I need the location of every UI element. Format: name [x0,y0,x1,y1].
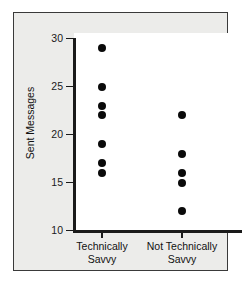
data-point [178,179,186,187]
x-category-label-line2: Savvy [122,253,242,266]
y-tick-label-text: 10 [14,225,63,236]
x-category-label: Not TechnicallySavvy [122,240,242,266]
y-tick-mark [66,86,73,88]
chart-panel: Sent Messages 3025201510 TechnicallySavv… [13,12,228,271]
y-tick-label-text: 30 [14,33,63,44]
y-tick-label-text: 25 [14,81,63,92]
y-tick-label: 20 [14,129,63,140]
data-point [98,102,106,110]
y-tick-mark [66,182,73,184]
y-tick-mark [66,134,73,136]
x-axis-line [73,230,242,233]
x-category-label-line1: Technically [76,240,127,252]
data-point [178,150,186,158]
y-tick-label-text: 20 [14,129,63,140]
data-point [98,83,106,91]
y-tick-label-text: 15 [14,177,63,188]
x-category-label-line1: Not Technically [147,240,217,252]
data-point [98,169,106,177]
y-tick-label: 15 [14,177,63,188]
x-tick-mark [181,232,183,238]
data-point [178,169,186,177]
plot-area [74,33,234,232]
y-tick-label: 25 [14,81,63,92]
y-tick-label: 30 [14,33,63,44]
y-tick-label: 10 [14,225,63,236]
y-axis-line [73,38,76,232]
y-tick-mark [66,230,73,232]
x-tick-mark [101,232,103,238]
y-tick-mark [66,38,73,40]
dot-plot-figure: Sent Messages 3025201510 TechnicallySavv… [0,0,243,286]
